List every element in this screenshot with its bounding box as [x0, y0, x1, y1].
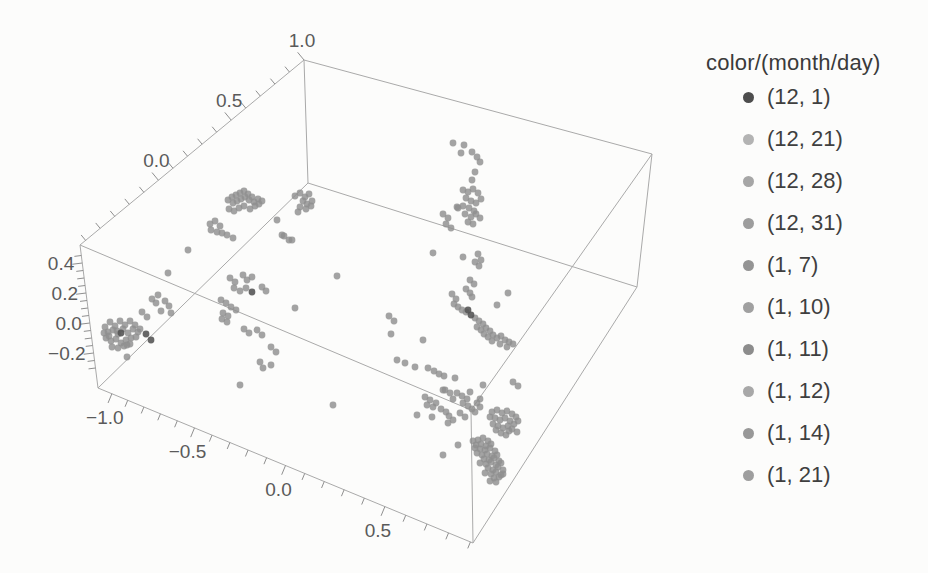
axis-tick [84, 331, 91, 332]
axis-tick [298, 52, 304, 60]
data-point [241, 203, 248, 210]
legend-marker-icon [743, 386, 754, 397]
legend-marker-icon [743, 218, 754, 229]
data-point [448, 225, 455, 232]
data-point [212, 218, 219, 225]
legend-marker-icon [743, 302, 754, 313]
box-edge [304, 60, 652, 154]
data-point [504, 344, 511, 351]
data-point [402, 360, 409, 367]
legend-item-label: (12, 28) [767, 168, 843, 194]
box-edge [637, 154, 652, 287]
box-edge [471, 154, 652, 410]
axis-tick [285, 67, 289, 72]
axis-tick [80, 301, 87, 302]
data-point [139, 309, 146, 316]
data-point [472, 169, 479, 176]
axis-tick [256, 91, 260, 96]
data-point [137, 326, 144, 333]
data-point-dark [118, 330, 125, 337]
data-point [470, 438, 477, 445]
data-point [295, 209, 302, 216]
data-point [471, 281, 478, 288]
data-point [430, 404, 437, 411]
axis-tick [139, 187, 143, 192]
data-point [155, 292, 162, 299]
legend-item-label: (1, 7) [767, 252, 818, 278]
data-point [475, 251, 482, 258]
data-point [388, 331, 395, 338]
data-point [472, 445, 479, 452]
data-point [268, 344, 275, 351]
data-point [505, 290, 512, 297]
data-point [450, 140, 457, 147]
axis-tick-labels: −1.0−0.50.00.50.00.51.0−0.20.00.20.4 [48, 30, 391, 541]
data-point [273, 349, 280, 356]
legend-marker-icon [743, 344, 754, 355]
data-point [225, 313, 232, 320]
data-point [424, 402, 431, 409]
axis-tick [81, 308, 88, 309]
data-point [445, 420, 452, 427]
data-point [478, 196, 485, 203]
axis-tick [77, 278, 84, 279]
legend-item-label: (1, 11) [767, 336, 829, 362]
data-point [493, 479, 500, 486]
tick-label: 0.2 [52, 283, 78, 304]
axis-ticks [72, 52, 470, 548]
axis-tick [341, 490, 344, 496]
data-point [489, 338, 496, 345]
data-point [467, 389, 474, 396]
data-point [469, 177, 476, 184]
axis-tick [209, 435, 212, 441]
data-point [477, 404, 484, 411]
data-point [482, 470, 489, 477]
data-point [420, 337, 427, 344]
axis-tick [322, 482, 325, 488]
data-point [158, 308, 165, 315]
data-point [462, 414, 469, 421]
data-point [268, 362, 275, 369]
tick-label: 0.4 [48, 253, 75, 274]
data-point [445, 215, 452, 222]
axis-tick [282, 466, 286, 475]
data-point [425, 365, 432, 372]
axis-tick [198, 139, 202, 144]
axis-tick [108, 394, 112, 403]
axis-tick [74, 256, 81, 257]
legend-item: (1, 12) [706, 378, 921, 404]
axis-tick [125, 199, 129, 204]
data-point [259, 332, 266, 339]
data-point [477, 396, 484, 403]
legend-item-label: (1, 12) [767, 378, 831, 404]
data-point [153, 300, 160, 307]
data-point [330, 402, 337, 409]
legend-item: (12, 31) [706, 210, 921, 236]
axis-tick [424, 524, 427, 530]
axis-tick [264, 458, 267, 464]
data-point [460, 254, 467, 261]
data-point [386, 313, 393, 320]
legend-marker-icon [743, 428, 754, 439]
legend-item: (1, 7) [706, 252, 921, 278]
legend-item-label: (12, 1) [767, 84, 831, 110]
data-point [440, 452, 447, 459]
data-point [461, 142, 468, 149]
box-edge [304, 60, 308, 183]
axis-tick [85, 338, 92, 339]
data-point [497, 341, 504, 348]
data-point [168, 310, 175, 317]
data-point [219, 230, 226, 237]
data-point [487, 478, 494, 485]
data-point [243, 285, 250, 292]
data-points [101, 140, 522, 486]
axis-tick [381, 507, 385, 516]
legend-marker-icon [743, 92, 754, 103]
tick-label: −1.0 [86, 407, 124, 428]
legend-marker-icon [743, 260, 754, 271]
data-point [477, 460, 484, 467]
data-point [249, 274, 256, 281]
data-point [475, 190, 482, 197]
axis-tick [245, 450, 248, 456]
tick-label: 0.0 [265, 479, 291, 500]
